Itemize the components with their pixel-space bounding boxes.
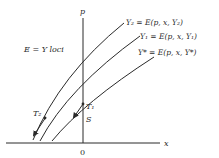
curve-ystar-label: Y* = E(p, x, Y*) <box>138 48 196 57</box>
point-t1-marker <box>82 103 85 106</box>
curve-y2-label: Y₂ = E(p, x, Y₂) <box>126 18 183 27</box>
curve-y1-label: Y₁ = E(p, x, Y₁) <box>140 32 197 41</box>
point-t1-label: T₁ <box>86 102 95 111</box>
origin-label: 0 <box>80 148 85 157</box>
p-axis-label: p <box>80 7 85 16</box>
economics-loci-diagram: x p 0 E = Y loci Y₂ = E(p, x, Y₂) Y₁ = E… <box>0 0 219 158</box>
arrow-t2-direction <box>34 117 46 135</box>
region-label: E = Y loci <box>23 45 64 54</box>
curve-y2 <box>33 23 124 140</box>
curve-ystar <box>52 57 154 141</box>
x-axis-label: x <box>164 139 169 148</box>
point-t2-label: T₂ <box>33 109 42 118</box>
point-s-label: S <box>86 115 92 124</box>
point-t2-marker <box>44 117 47 120</box>
